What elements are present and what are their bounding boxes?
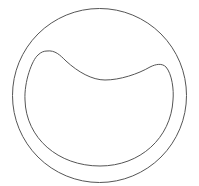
diagram-svg	[0, 0, 199, 186]
outer-ring	[13, 9, 187, 183]
inner-bowl-shape	[25, 51, 173, 166]
diagram-canvas	[0, 0, 199, 186]
